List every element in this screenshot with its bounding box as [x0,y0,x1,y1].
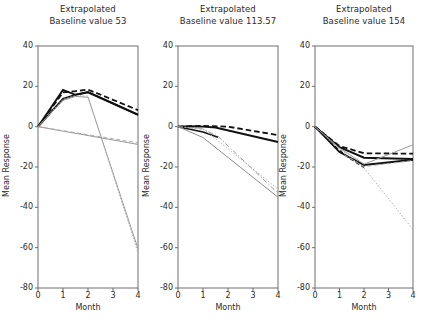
x-tick-label: 3 [380,291,398,300]
chart-panel-3: ExtrapolatedBaseline value 15440200-20-4… [0,0,423,320]
y-tick-label: -60 [281,243,310,252]
y-tick-label: 40 [281,41,310,50]
x-tick-label: 4 [404,291,422,300]
plot-area-3 [0,0,423,320]
figure-root: ExtrapolatedBaseline value 5340200-20-40… [0,0,423,320]
y-axis-label: Mean Response [279,106,288,226]
x-tick-label: 2 [355,291,373,300]
x-axis-label: Month [315,303,413,312]
x-tick-label: 1 [331,291,349,300]
y-tick-label: 20 [281,81,310,90]
x-tick-label: 0 [306,291,324,300]
